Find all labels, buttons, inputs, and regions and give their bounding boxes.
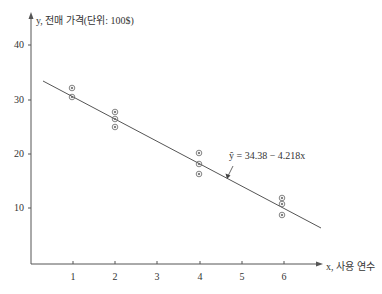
annotation-arrow [228, 166, 233, 176]
point [279, 212, 285, 218]
y-tick-label: 20 [4, 148, 24, 159]
point [279, 201, 285, 207]
y-axis-label: y, 전매 가격(단위: 100$) [36, 12, 134, 27]
x-tick-label: 4 [193, 271, 207, 282]
x-tick-label: 6 [277, 271, 291, 282]
scatter-plot [0, 0, 382, 294]
point [112, 124, 118, 130]
x-tick-label: 2 [108, 271, 122, 282]
point [69, 85, 75, 91]
point [196, 150, 202, 156]
x-tick-label: 5 [235, 271, 249, 282]
x-axis-label: x, 사용 연수 [326, 258, 375, 273]
x-axis-arrow-icon [316, 262, 323, 267]
y-tick-label: 40 [4, 39, 24, 50]
y-tick-label: 10 [4, 202, 24, 213]
point [112, 109, 118, 115]
y-axis-arrow-icon [29, 12, 34, 19]
point [112, 116, 118, 122]
point [279, 195, 285, 201]
y-tick-label: 30 [4, 94, 24, 105]
regression-equation: ŷ = 34.38 − 4.218x [229, 150, 305, 161]
point [196, 171, 202, 177]
x-tick-label: 3 [150, 271, 164, 282]
x-tick-label: 1 [66, 271, 80, 282]
